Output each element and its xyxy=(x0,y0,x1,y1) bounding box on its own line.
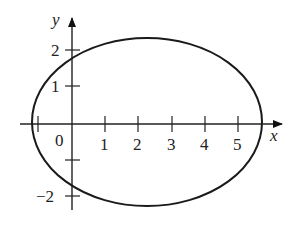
x-tick-label-5: 5 xyxy=(233,135,242,154)
ellipse-curve xyxy=(32,38,262,206)
x-tick-label-4: 4 xyxy=(200,135,209,154)
x-tick-label-1: 1 xyxy=(100,135,109,154)
origin-label: 0 xyxy=(55,131,64,150)
ellipse-diagram: y x 0 1 2 3 4 5 2 1 −2 xyxy=(0,0,294,229)
y-axis-label: y xyxy=(50,10,60,29)
y-tick-label-neg2: −2 xyxy=(36,187,54,206)
y-tick-label-1: 1 xyxy=(51,77,60,96)
y-tick-label-2: 2 xyxy=(51,41,60,60)
x-tick-label-3: 3 xyxy=(167,135,176,154)
x-tick-label-2: 2 xyxy=(133,135,142,154)
x-axis-label: x xyxy=(269,126,278,145)
